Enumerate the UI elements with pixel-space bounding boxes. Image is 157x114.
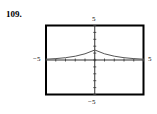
- graph-plot: [0, 0, 157, 114]
- axes: [46, 26, 144, 95]
